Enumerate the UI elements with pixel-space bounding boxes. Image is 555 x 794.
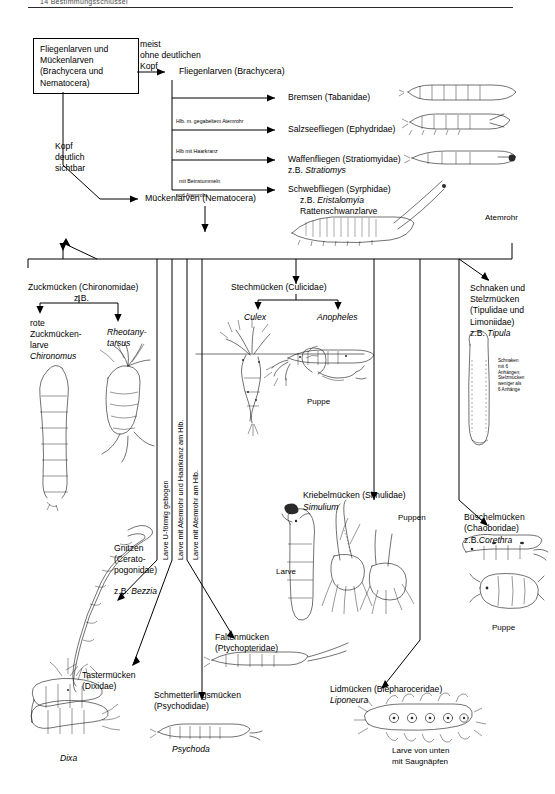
illustration-chironomus [40, 365, 69, 511]
illustration-bezzia [66, 525, 153, 692]
illustration-stratiomyidae [404, 151, 516, 164]
illustration-liponeura [354, 693, 486, 742]
illustration-tabanidae [399, 85, 516, 100]
illustration-syrphidae [292, 181, 446, 246]
illustration-simulium [282, 504, 315, 621]
illustration-rheotanytarsus [100, 340, 154, 462]
illustration-psychoda [150, 724, 262, 740]
illustration-anopheles [196, 350, 374, 386]
illustration-ptychopteridae [204, 643, 348, 667]
illustration-layer [0, 0, 555, 794]
illustration-tipula [469, 331, 490, 445]
illustration-simulium-pupae [322, 500, 414, 614]
illustration-corethra-pupa [470, 574, 544, 609]
illustration-culex [220, 318, 270, 436]
illustration-ephydridae [402, 114, 510, 135]
illustration-corethra [462, 534, 548, 560]
